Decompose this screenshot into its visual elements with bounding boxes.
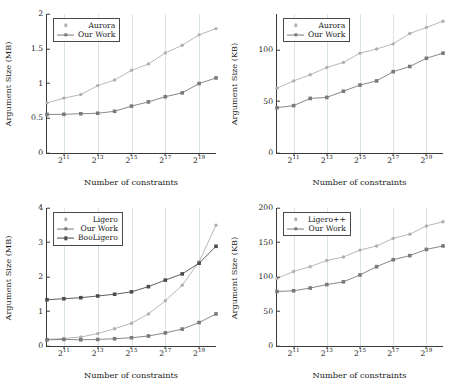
data-point-marker — [45, 338, 49, 342]
legend-item-label: BooLigero — [78, 234, 118, 242]
legend-item[interactable]: Our Work — [57, 31, 115, 39]
data-point-marker — [441, 51, 445, 55]
data-point-marker — [392, 42, 395, 45]
data-point-marker — [147, 62, 150, 65]
y-axis-label-top-left: Argument Size (MB) — [2, 14, 15, 154]
y-tick-label: 1 — [38, 80, 47, 88]
legend-square-marker-icon — [287, 225, 304, 232]
legend-square-marker-icon — [57, 235, 74, 242]
data-point-marker — [342, 280, 346, 284]
data-point-marker — [180, 327, 184, 331]
data-point-marker — [308, 97, 312, 101]
y-axis-label-top-right: Argument Size (KB) — [228, 14, 241, 154]
data-point-marker — [181, 284, 184, 287]
data-point-marker — [325, 259, 328, 262]
legend-top-right: AuroraOur Work — [283, 18, 350, 42]
data-point-marker — [214, 76, 218, 80]
data-point-marker — [130, 69, 133, 72]
y-tick-label: 50 — [263, 308, 277, 316]
y-tick-label: 100 — [259, 273, 278, 281]
data-point-marker — [197, 321, 201, 325]
data-point-marker — [197, 82, 201, 86]
data-point-marker — [96, 84, 99, 87]
data-point-marker — [113, 292, 117, 296]
data-point-marker — [147, 312, 150, 315]
data-point-marker — [79, 112, 83, 116]
data-point-marker — [130, 336, 134, 340]
plot-area-bottom-right: 050100150200211213215217219Ligero++Our W… — [276, 208, 443, 347]
data-point-marker — [62, 297, 66, 301]
data-point-marker — [130, 104, 134, 108]
data-point-marker — [197, 33, 200, 36]
data-point-marker — [45, 298, 49, 302]
x-axis-label-top-left: Number of constraints — [46, 178, 216, 186]
data-point-marker — [375, 79, 379, 83]
x-axis-label-bottom-left: Number of constraints — [46, 371, 216, 379]
series-line-our-work — [47, 314, 216, 340]
legend-bottom-left: LigeroOur WorkBooLigero — [53, 212, 123, 246]
y-tick-label: 2 — [38, 10, 47, 18]
legend-item-label: Our Work — [308, 225, 346, 233]
x-tick-label: 215 — [126, 153, 138, 165]
legend-item[interactable]: Our Work — [287, 225, 346, 233]
data-point-marker — [342, 61, 345, 64]
data-point-marker — [342, 255, 345, 258]
legend-square-marker-icon — [57, 31, 74, 38]
data-point-marker — [358, 83, 362, 87]
data-point-marker — [130, 290, 134, 294]
data-point-marker — [408, 32, 411, 35]
legend-item[interactable]: Our Work — [287, 31, 345, 39]
y-tick-label: 3 — [38, 239, 47, 247]
data-point-marker — [391, 70, 395, 74]
chart-panel-top-left: Argument Size (MB) 00.511.52211213215217… — [0, 0, 226, 194]
legend-item[interactable]: Ligero — [57, 216, 118, 224]
legend-item-label: Aurora — [308, 22, 345, 30]
y-axis-label-bottom-left: Argument Size (MB) — [2, 208, 15, 347]
data-point-marker — [292, 104, 296, 108]
data-point-marker — [96, 111, 100, 115]
data-point-marker — [147, 285, 151, 289]
data-point-marker — [164, 331, 168, 335]
y-tick-label: 0 — [268, 342, 277, 350]
x-tick-label: 217 — [387, 346, 399, 358]
legend-item[interactable]: BooLigero — [57, 234, 118, 242]
data-point-marker — [408, 233, 411, 236]
data-point-marker — [181, 44, 184, 47]
x-tick-label: 217 — [387, 153, 399, 165]
plot-area-bottom-left: 01234211213215217219LigeroOur WorkBooLig… — [46, 208, 216, 347]
x-tick-label: 211 — [58, 153, 70, 165]
x-tick-label: 219 — [193, 346, 205, 358]
legend-item-label: Our Work — [308, 31, 345, 39]
data-point-marker — [62, 338, 66, 342]
data-point-marker — [425, 248, 429, 252]
data-point-marker — [408, 65, 412, 69]
data-point-marker — [164, 51, 167, 54]
data-point-marker — [113, 327, 116, 330]
data-point-marker — [375, 265, 379, 269]
legend-item[interactable]: Ligero++ — [287, 216, 346, 224]
data-point-marker — [45, 101, 48, 104]
data-point-marker — [342, 89, 346, 93]
data-point-marker — [325, 66, 328, 69]
y-tick-label: 100 — [259, 46, 278, 54]
legend-item[interactable]: Aurora — [287, 22, 345, 30]
legend-item-label: Ligero — [78, 216, 118, 224]
legend-item[interactable]: Aurora — [57, 22, 115, 30]
chart-panel-bottom-left: Argument Size (MB) 01234211213215217219L… — [0, 194, 226, 387]
x-tick-label: 215 — [354, 346, 366, 358]
data-point-marker — [292, 270, 295, 273]
figure-grid: Argument Size (MB) 00.511.52211213215217… — [0, 0, 453, 387]
data-point-marker — [180, 91, 184, 95]
data-point-marker — [96, 338, 100, 342]
data-point-marker — [79, 93, 82, 96]
legend-item-label: Ligero++ — [308, 216, 346, 224]
y-tick-label: 0.5 — [31, 114, 47, 122]
data-point-marker — [79, 338, 83, 342]
legend-item[interactable]: Our Work — [57, 225, 118, 233]
data-point-marker — [375, 244, 378, 247]
data-point-marker — [275, 86, 278, 89]
data-point-marker — [325, 283, 329, 287]
x-tick-label: 215 — [126, 346, 138, 358]
data-point-marker — [425, 56, 429, 60]
y-tick-label: 0 — [38, 149, 47, 157]
